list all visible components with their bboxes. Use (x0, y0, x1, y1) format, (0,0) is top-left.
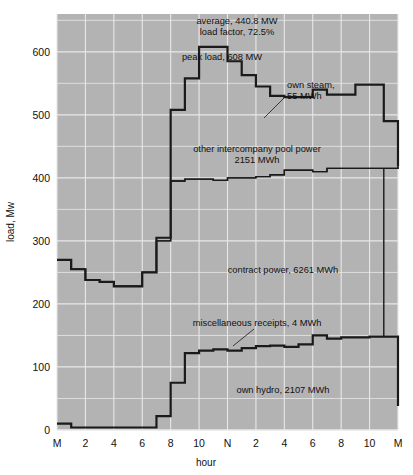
annotation-own-hydro: own hydro, 2107 MWh (236, 385, 329, 395)
annotation-misc-receipts: miscellaneous receipts, 4 MWh (193, 318, 322, 328)
annotation-load-factor: load factor, 72.5% (200, 27, 274, 37)
y-tick-label: 0 (44, 424, 50, 436)
x-tick-label: 10 (364, 437, 376, 449)
annotation-pool-power-line2: 2151 MWh (235, 155, 280, 165)
annotation-contract-power: contract power, 6261 MWh (228, 265, 339, 275)
annotation-peak-load: peak load, 608 MW (182, 52, 262, 62)
y-tick-label: 100 (32, 361, 50, 373)
y-tick-label: 400 (32, 172, 50, 184)
annotation-average: average, 440.8 MW (196, 16, 277, 26)
x-tick-label: M (53, 437, 62, 449)
x-tick-label: M (394, 437, 403, 449)
x-tick-label: N (224, 437, 232, 449)
y-axis-title: load, Mw (5, 201, 16, 242)
x-tick-label: 6 (139, 437, 145, 449)
chart-canvas: 0100200300400500600 M246810N246810M hour… (0, 0, 413, 475)
x-axis-title: hour (196, 457, 217, 468)
x-tick-label: 4 (111, 437, 117, 449)
x-tick-label: 6 (310, 437, 316, 449)
y-tick-label: 600 (32, 46, 50, 58)
load-curve-figure: 0100200300400500600 M246810N246810M hour… (0, 0, 413, 475)
x-tick-label: 2 (253, 437, 259, 449)
annotation-own-steam-line1: own steam, (287, 80, 335, 90)
annotation-own-steam-line2: 55 MWh (287, 91, 322, 101)
annotation-pool-power-line1: other intercompany pool power (193, 144, 321, 154)
x-tick-label: 2 (82, 437, 88, 449)
y-tick-label: 300 (32, 235, 50, 247)
x-tick-label: 10 (193, 437, 205, 449)
x-tick-label: 8 (338, 437, 344, 449)
x-tick-label: 8 (168, 437, 174, 449)
y-tick-label: 500 (32, 109, 50, 121)
y-tick-label: 200 (32, 298, 50, 310)
x-tick-label: 4 (281, 437, 287, 449)
